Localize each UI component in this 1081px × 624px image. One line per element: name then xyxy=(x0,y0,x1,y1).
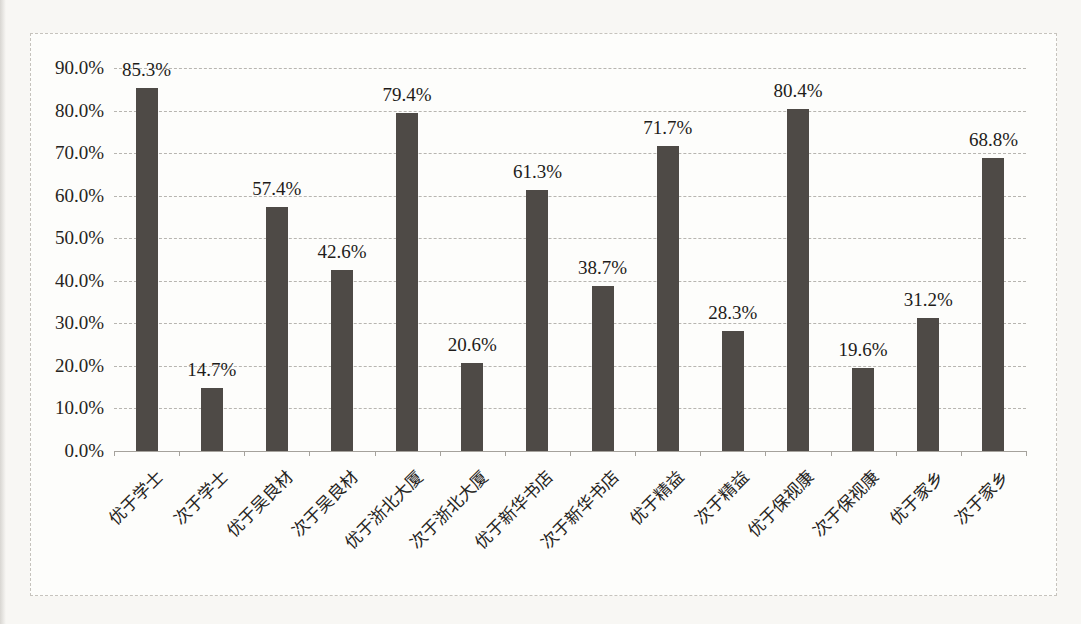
x-axis-tick-mark xyxy=(375,451,376,456)
bar xyxy=(266,207,288,451)
bar-value-label: 38.7% xyxy=(553,257,653,279)
gridline xyxy=(114,281,1026,282)
bar xyxy=(201,388,223,451)
x-axis-tick-mark xyxy=(179,451,180,456)
y-axis-tick-label: 30.0% xyxy=(26,312,104,334)
y-axis-tick-label: 0.0% xyxy=(26,440,104,462)
x-axis-tick-mark xyxy=(700,451,701,456)
x-axis-tick-mark xyxy=(570,451,571,456)
bar-value-label: 14.7% xyxy=(162,359,262,381)
x-axis-tick-mark xyxy=(440,451,441,456)
bar-value-label: 42.6% xyxy=(292,241,392,263)
x-axis-category-label: 次于家乡 xyxy=(883,464,1014,595)
x-axis-tick-mark xyxy=(309,451,310,456)
bar-value-label: 80.4% xyxy=(748,80,848,102)
bar xyxy=(657,146,679,451)
y-axis-tick-label: 80.0% xyxy=(26,100,104,122)
bar xyxy=(787,109,809,451)
bar xyxy=(396,113,418,451)
x-axis-tick-mark xyxy=(635,451,636,456)
bar-value-label: 61.3% xyxy=(487,161,587,183)
y-axis-tick-label: 70.0% xyxy=(26,142,104,164)
bar-value-label: 31.2% xyxy=(878,289,978,311)
y-axis-tick-label: 50.0% xyxy=(26,227,104,249)
bar-value-label: 20.6% xyxy=(422,334,522,356)
bar xyxy=(722,331,744,451)
bar xyxy=(331,270,353,451)
bar xyxy=(136,88,158,451)
bar-value-label: 68.8% xyxy=(943,129,1043,151)
y-axis-tick-label: 60.0% xyxy=(26,185,104,207)
bar-chart-plot-area: 0.0%10.0%20.0%30.0%40.0%50.0%60.0%70.0%8… xyxy=(31,34,1056,595)
gridline xyxy=(114,238,1026,239)
chart-frame: 0.0%10.0%20.0%30.0%40.0%50.0%60.0%70.0%8… xyxy=(30,33,1057,596)
bar xyxy=(461,363,483,451)
gridline xyxy=(114,153,1026,154)
bar-value-label: 28.3% xyxy=(683,302,783,324)
bar xyxy=(917,318,939,451)
scan-edge-artifact xyxy=(0,0,6,624)
y-axis-tick-label: 90.0% xyxy=(26,57,104,79)
y-axis-tick-label: 20.0% xyxy=(26,355,104,377)
x-axis-tick-mark xyxy=(114,451,115,456)
bar-value-label: 71.7% xyxy=(618,117,718,139)
gridline xyxy=(114,68,1026,69)
bar xyxy=(982,158,1004,451)
x-axis-tick-mark xyxy=(961,451,962,456)
x-axis-tick-mark xyxy=(765,451,766,456)
scanned-page: 0.0%10.0%20.0%30.0%40.0%50.0%60.0%70.0%8… xyxy=(0,0,1081,624)
y-axis-tick-label: 10.0% xyxy=(26,397,104,419)
bar-value-label: 19.6% xyxy=(813,339,913,361)
x-axis-category-label: 优于新华书店 xyxy=(427,464,558,595)
x-axis-tick-mark xyxy=(1026,451,1027,456)
x-axis-tick-mark xyxy=(896,451,897,456)
gridline xyxy=(114,408,1026,409)
x-axis-tick-mark xyxy=(831,451,832,456)
gridline xyxy=(114,323,1026,324)
bar xyxy=(592,286,614,451)
bar-value-label: 85.3% xyxy=(97,59,197,81)
x-axis-tick-mark xyxy=(505,451,506,456)
x-axis-tick-mark xyxy=(244,451,245,456)
gridline xyxy=(114,111,1026,112)
y-axis-tick-label: 40.0% xyxy=(26,270,104,292)
bar-value-label: 57.4% xyxy=(227,178,327,200)
bar-value-label: 79.4% xyxy=(357,84,457,106)
bar xyxy=(852,368,874,451)
bar xyxy=(526,190,548,451)
